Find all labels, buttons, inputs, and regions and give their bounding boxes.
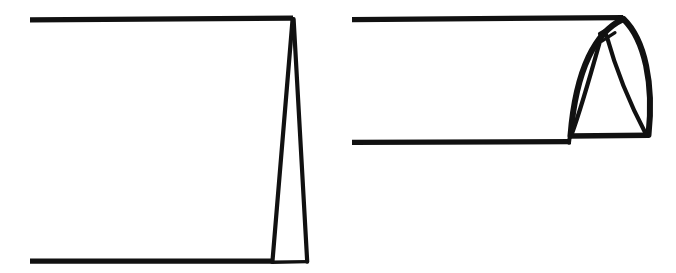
right-hood-bottom-left-joint xyxy=(569,133,570,143)
right-upper-horizontal-rule xyxy=(352,18,623,20)
line-drawing-canvas xyxy=(0,0,676,273)
left-fold-base xyxy=(272,262,308,263)
right-hood-base xyxy=(570,135,650,136)
figure-root xyxy=(0,0,676,273)
right-lower-horizontal-rule xyxy=(352,142,571,143)
left-upper-horizontal-rule xyxy=(30,18,293,20)
